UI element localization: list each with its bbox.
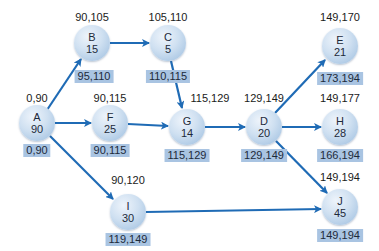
node-a[interactable]: A 90 <box>19 105 55 141</box>
node-a-name: A <box>33 111 40 123</box>
node-a-late-times: 0,90 <box>23 144 50 157</box>
node-d-early-times: 129,149 <box>244 92 284 104</box>
node-j-late-times: 149,194 <box>317 229 363 242</box>
node-i[interactable]: I 30 <box>110 194 146 230</box>
node-c-early-times: 105,110 <box>149 11 188 23</box>
node-i-name: I <box>126 200 129 212</box>
node-a-duration: 90 <box>31 123 43 135</box>
node-e-late-times: 173,194 <box>317 72 363 85</box>
edge-a-b <box>47 59 81 110</box>
node-g-late-times: 115,129 <box>165 149 210 162</box>
node-d-name: D <box>260 115 268 127</box>
node-d-late-times: 129,149 <box>241 149 287 162</box>
node-f-early-times: 90,115 <box>94 92 127 104</box>
edge-c-g <box>171 61 182 108</box>
node-f-name: F <box>107 111 114 123</box>
node-e[interactable]: E 21 <box>322 28 358 64</box>
node-j-early-times: 149,194 <box>320 171 360 183</box>
node-d[interactable]: D 20 <box>246 109 282 145</box>
edge-i-j <box>146 209 321 212</box>
node-g[interactable]: G 14 <box>169 109 205 145</box>
node-b-early-times: 90,105 <box>75 11 109 23</box>
node-g-early-times: 115,129 <box>191 92 230 104</box>
node-g-duration: 14 <box>181 127 193 139</box>
node-e-duration: 21 <box>334 46 346 58</box>
node-c-name: C <box>164 31 172 43</box>
node-a-early-times: 0,90 <box>26 92 47 104</box>
node-h-duration: 28 <box>334 127 346 139</box>
node-j[interactable]: J 45 <box>322 189 358 225</box>
node-c[interactable]: C 5 <box>150 25 186 61</box>
node-h-early-times: 149,177 <box>320 92 360 104</box>
node-b-late-times: 95,110 <box>75 70 114 83</box>
edge-d-e <box>275 60 325 113</box>
node-f-duration: 25 <box>104 123 116 135</box>
node-e-early-times: 149,170 <box>320 11 360 23</box>
node-f-late-times: 90,115 <box>91 144 130 157</box>
node-h[interactable]: H 28 <box>322 109 358 145</box>
node-f[interactable]: F 25 <box>92 105 128 141</box>
node-j-name: J <box>337 195 343 207</box>
edge-f-g <box>128 124 168 126</box>
node-d-duration: 20 <box>258 127 270 139</box>
node-e-name: E <box>336 34 343 46</box>
node-b-name: B <box>88 31 95 43</box>
node-c-late-times: 110,115 <box>146 70 190 83</box>
node-c-duration: 5 <box>165 43 171 55</box>
node-h-late-times: 166,194 <box>317 149 363 162</box>
node-j-duration: 45 <box>334 207 346 219</box>
node-b[interactable]: B 15 <box>74 25 110 61</box>
node-b-duration: 15 <box>86 43 98 55</box>
node-i-early-times: 90,120 <box>111 174 145 186</box>
node-h-name: H <box>336 115 344 127</box>
node-g-name: G <box>183 115 192 127</box>
node-i-late-times: 119,149 <box>106 233 151 246</box>
node-i-duration: 30 <box>122 212 134 224</box>
